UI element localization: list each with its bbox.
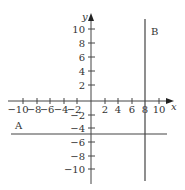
y-axis: 10 8 6 4 2 −2 −4 −6 −8 −10 y: [64, 11, 95, 184]
y-tick-label: −10: [64, 164, 85, 175]
y-tick-label: −8: [70, 151, 85, 162]
y-tick-label: 6: [79, 52, 85, 63]
line-a-label: A: [14, 120, 23, 131]
x-tick-label: 4: [115, 104, 121, 115]
y-axis-arrow-icon: [88, 13, 94, 21]
x-tick-label: 6: [129, 104, 135, 115]
y-tick-label: 2: [79, 80, 85, 91]
y-axis-label: y: [81, 11, 88, 22]
x-axis-label: x: [171, 101, 177, 112]
y-tick-label: −4: [70, 123, 85, 134]
y-tick-label: 8: [79, 38, 85, 49]
x-tick-label: 2: [102, 104, 108, 115]
line-a: A: [11, 120, 167, 134]
x-tick-label: −10: [7, 104, 28, 115]
y-tick-label: −2: [70, 110, 85, 121]
y-tick-label: 4: [79, 66, 85, 77]
line-b-label: B: [151, 26, 158, 37]
y-tick-label: 10: [72, 24, 85, 35]
line-b: B: [145, 19, 158, 181]
coordinate-plane: −10 −8 −6 −4 −2 2 4 6 8 10 x 10 8 6 4 2: [0, 0, 185, 190]
y-tick-label: −6: [70, 137, 85, 148]
x-axis: −10 −8 −6 −4 −2 2 4 6 8 10 x: [7, 98, 177, 115]
x-tick-label: 10: [153, 104, 166, 115]
x-tick-label: −6: [40, 104, 55, 115]
